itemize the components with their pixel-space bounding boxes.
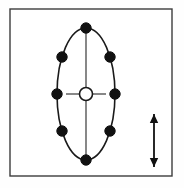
node-upper-left [57, 52, 67, 62]
diagram-canvas [0, 0, 184, 188]
node-lower-right [105, 126, 115, 136]
center-open-circle [80, 88, 93, 101]
node-upper-right [105, 52, 115, 62]
node-mid-left [52, 89, 62, 99]
figure-root [0, 0, 184, 188]
node-lower-left [57, 126, 67, 136]
node-mid-right [110, 89, 120, 99]
node-top [81, 23, 91, 33]
node-bottom [81, 155, 91, 165]
